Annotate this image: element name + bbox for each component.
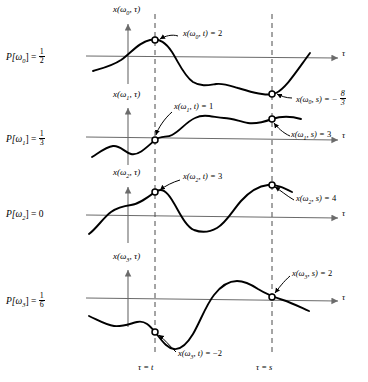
point-omega1-s	[269, 116, 275, 122]
axis-label-omega1: x(ω1, τ)	[113, 89, 140, 101]
annotation-omega3-s: x(ω3, s) = 2	[292, 268, 332, 280]
probability-value-omega2: 0	[39, 209, 44, 219]
annotation-omega1-t: x(ω1, t) = 1	[174, 101, 213, 113]
leader-omega2-t	[160, 180, 180, 190]
probability-fraction-omega3: 1 6	[39, 292, 45, 309]
tau-axis-label-row-0: τ	[342, 48, 345, 58]
annotation-omega3-t: x(ω3, t) = −2	[178, 348, 222, 360]
annotation-omega1-s: x(ω1, s) = 3	[291, 129, 331, 141]
axis-label-omega3: x(ω3, τ)	[113, 251, 140, 263]
leader-omega0-t	[160, 35, 178, 39]
point-omega3-t	[152, 329, 158, 335]
figure-svg	[0, 0, 368, 382]
probability-label-omega0: P[ω0] = 1 2	[6, 48, 45, 65]
annotation-leaders	[156, 35, 294, 352]
tau-axis-label-row-1: τ	[342, 130, 345, 140]
tau-axis-label-row-2: τ	[342, 208, 345, 218]
point-omega2-t	[152, 189, 158, 195]
leader-omega3-t	[159, 335, 176, 352]
annotation-omega0-s: x(ω0, s) = − 8 3	[296, 90, 346, 107]
leader-omega1-s	[274, 123, 290, 136]
annotation-omega2-t: x(ω2, t) = 3	[183, 171, 222, 183]
time-tick-label-t: τ = t	[138, 362, 153, 372]
curve-omega1	[92, 116, 301, 157]
sample-function-curves	[89, 40, 310, 350]
probability-fraction-omega1: 1 3	[39, 130, 45, 147]
annotation-omega0-t: x(ω0, t) = 2	[183, 28, 222, 40]
point-omega0-t	[152, 37, 158, 43]
point-omega0-s	[269, 91, 275, 97]
leader-omega1-t	[156, 112, 172, 135]
curve-omega0	[93, 40, 310, 95]
tau-axis-label-row-3: τ	[342, 292, 345, 302]
figure-container: P[ω0] = 1 2 x(ω0, τ) x(ω0, t) = 2 x(ω0, …	[0, 0, 368, 382]
probability-label-omega3: P[ω3] = 1 6	[6, 292, 45, 309]
leader-omega3-s	[275, 276, 290, 293]
sample-point-markers	[152, 37, 275, 335]
axis-label-omega2: x(ω2, τ)	[113, 167, 140, 179]
probability-label-omega2: P[ω2] = 0	[6, 209, 43, 221]
time-tick-label-s: τ = s	[256, 362, 272, 372]
leader-omega0-s	[277, 94, 292, 98]
probability-fraction-omega0: 1 2	[39, 48, 45, 65]
curve-omega2	[89, 185, 292, 234]
point-omega3-s	[269, 294, 275, 300]
probability-label-omega1: P[ω1] = 1 3	[6, 130, 45, 147]
axis-label-omega0: x(ω0, τ)	[113, 4, 140, 16]
point-omega2-s	[269, 182, 275, 188]
point-omega1-t	[152, 137, 158, 143]
annotation-omega2-s: x(ω2, s) = 4	[296, 193, 336, 205]
annotation-fraction-omega0-s: 8 3	[340, 90, 346, 107]
tau-axis-row-2	[86, 215, 338, 218]
